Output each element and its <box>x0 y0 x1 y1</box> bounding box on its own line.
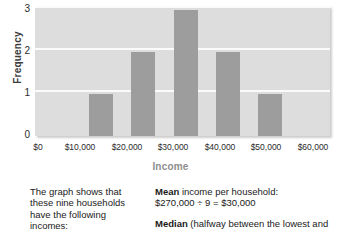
x-tick-6: $60,000 <box>290 142 336 152</box>
x-tick-3: $30,000 <box>150 142 196 152</box>
y-tick-1: 1 <box>8 87 30 98</box>
x-tick-0: $0 <box>15 142 61 152</box>
bar-30000 <box>174 10 198 136</box>
y-tick-3: 3 <box>8 3 30 14</box>
median-description: (halfway between the lowest and <box>188 218 328 229</box>
median-heading-line: Median (halfway between the lowest and <box>155 218 341 229</box>
caption-left-line-3: have the following <box>30 209 150 220</box>
x-tick-2: $20,000 <box>104 142 150 152</box>
y-tick-2: 2 <box>8 45 30 56</box>
y-axis-label: Frequency <box>12 20 23 96</box>
caption-left-line-4: incomes: <box>30 220 150 231</box>
y-tick-0: 0 <box>8 129 30 140</box>
bar-40000 <box>216 52 240 136</box>
caption-right-column: Mean income per household: $270,000 ÷ 9 … <box>155 186 341 229</box>
paragraph-spacer <box>155 209 341 218</box>
mean-label: Mean <box>155 186 179 197</box>
x-tick-5: $50,000 <box>243 142 289 152</box>
bar-10000 <box>89 94 113 136</box>
median-label: Median <box>155 218 188 229</box>
mean-heading-line: Mean income per household: <box>155 186 341 197</box>
caption-left-line-1: The graph shows that <box>30 186 150 197</box>
x-tick-4: $40,000 <box>197 142 243 152</box>
caption-block: The graph shows that these nine househol… <box>0 186 341 235</box>
caption-left-column: The graph shows that these nine househol… <box>30 186 150 232</box>
caption-left-line-2: these nine households <box>30 197 150 208</box>
bar-50000 <box>258 94 282 136</box>
bar-20000 <box>131 52 155 136</box>
histogram-figure: Frequency 3 2 1 0 $0 $10,000 $20,000 $30… <box>0 0 341 180</box>
mean-calculation: $270,000 ÷ 9 = $30,000 <box>155 197 341 208</box>
x-axis-label: Income <box>0 161 341 172</box>
plot-area <box>35 6 330 136</box>
mean-description: income per household: <box>179 186 278 197</box>
bar-series <box>35 6 330 136</box>
x-tick-1: $10,000 <box>57 142 103 152</box>
